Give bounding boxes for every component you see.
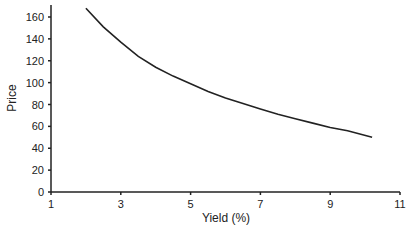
x-tick-label: 1 — [48, 198, 54, 210]
ticks: 0204060801001201401601357911 — [26, 11, 406, 210]
x-tick-label: 3 — [118, 198, 124, 210]
y-tick-label: 140 — [26, 33, 44, 45]
x-tick-label: 5 — [188, 198, 194, 210]
y-tick-label: 80 — [32, 99, 44, 111]
y-axis-label: Price — [5, 84, 19, 112]
x-tick-label: 7 — [257, 198, 263, 210]
y-tick-label: 120 — [26, 55, 44, 67]
y-tick-label: 40 — [32, 142, 44, 154]
x-tick-label: 11 — [394, 198, 405, 210]
y-tick-label: 60 — [32, 120, 44, 132]
y-tick-label: 0 — [38, 186, 44, 198]
y-tick-label: 100 — [26, 77, 44, 89]
x-tick-label: 9 — [327, 198, 333, 210]
price-curve — [86, 8, 372, 137]
x-axis-label: Yield (%) — [202, 211, 250, 225]
y-tick-label: 160 — [26, 11, 44, 23]
price-yield-chart: 0204060801001201401601357911 Yield (%) P… — [0, 0, 411, 236]
y-tick-label: 20 — [32, 164, 44, 176]
